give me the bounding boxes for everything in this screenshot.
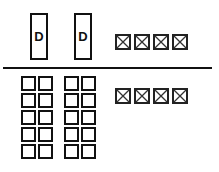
grid-cell bbox=[81, 93, 96, 108]
grid-cell bbox=[81, 144, 96, 159]
grid-cell bbox=[81, 110, 96, 125]
grid-cell bbox=[81, 76, 96, 91]
box-grid-2 bbox=[64, 76, 96, 159]
tall-box-d-2: D bbox=[74, 13, 92, 60]
grid-cell bbox=[21, 144, 36, 159]
grid-cell bbox=[64, 110, 79, 125]
crossed-box-icon bbox=[172, 88, 188, 104]
grid-cell bbox=[64, 144, 79, 159]
grid-cell bbox=[38, 127, 53, 142]
horizontal-divider bbox=[3, 67, 212, 69]
crossed-box-icon bbox=[115, 88, 131, 104]
tall-box-d-1: D bbox=[30, 13, 48, 60]
grid-cell bbox=[64, 127, 79, 142]
grid-cell bbox=[64, 93, 79, 108]
grid-cell bbox=[21, 110, 36, 125]
crossed-box-icon bbox=[134, 88, 150, 104]
grid-cell bbox=[21, 127, 36, 142]
grid-cell bbox=[38, 110, 53, 125]
grid-cell bbox=[38, 144, 53, 159]
crossed-box-row-top bbox=[115, 34, 188, 50]
grid-cell bbox=[64, 76, 79, 91]
grid-cell bbox=[81, 127, 96, 142]
grid-cell bbox=[21, 93, 36, 108]
crossed-box-icon bbox=[134, 34, 150, 50]
crossed-box-icon bbox=[153, 34, 169, 50]
crossed-box-row-bottom bbox=[115, 88, 188, 104]
crossed-box-icon bbox=[172, 34, 188, 50]
tall-box-label: D bbox=[34, 29, 43, 44]
crossed-box-icon bbox=[153, 88, 169, 104]
grid-cell bbox=[38, 76, 53, 91]
crossed-box-icon bbox=[115, 34, 131, 50]
grid-cell bbox=[21, 76, 36, 91]
grid-cell bbox=[38, 93, 53, 108]
box-grid-1 bbox=[21, 76, 53, 159]
tall-box-label: D bbox=[78, 29, 87, 44]
